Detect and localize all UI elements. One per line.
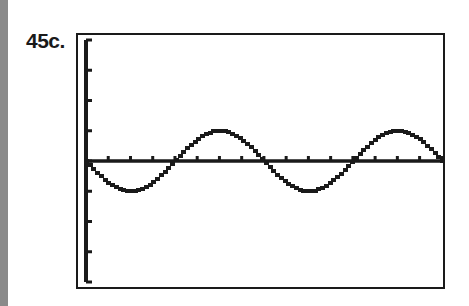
graph-plot bbox=[0, 0, 469, 306]
